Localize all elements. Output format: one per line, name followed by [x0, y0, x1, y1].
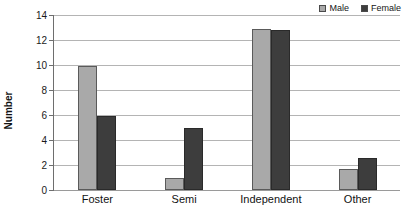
- bar-group: [252, 15, 290, 190]
- y-axis-tick-label: 0: [41, 185, 47, 196]
- chart-legend: Male Female: [319, 4, 401, 13]
- y-axis-tick-label: 8: [41, 85, 47, 96]
- bar-female-foster: [97, 116, 116, 190]
- bar-chart: Male Female Number 14121086420 FosterSem…: [0, 0, 407, 218]
- bar-group: [339, 15, 377, 190]
- bar-female-independent: [271, 30, 290, 190]
- y-axis-tick-label: 14: [36, 10, 47, 21]
- x-axis-label-foster: Foster: [82, 193, 113, 205]
- y-axis-tick-label: 2: [41, 160, 47, 171]
- y-axis-tick-label: 10: [36, 60, 47, 71]
- y-axis-tick-mark: [49, 190, 54, 191]
- x-axis-label-independent: Independent: [240, 193, 301, 205]
- x-axis-category-labels: FosterSemiIndependentOther: [54, 193, 401, 215]
- legend-swatch-female-icon: [361, 5, 368, 12]
- bar-female-semi: [184, 128, 203, 191]
- y-axis-title: Number: [2, 50, 16, 170]
- y-axis-tick-label: 12: [36, 35, 47, 46]
- bar-group: [165, 15, 203, 190]
- legend-label-female: Female: [371, 4, 401, 13]
- legend-item-male: Male: [319, 4, 349, 13]
- bar-series-container: [54, 15, 400, 190]
- x-axis-label-other: Other: [344, 193, 372, 205]
- legend-swatch-male-icon: [319, 5, 326, 12]
- x-axis-label-semi: Semi: [172, 193, 197, 205]
- y-axis-tick-label: 6: [41, 110, 47, 121]
- y-axis-tick-label: 4: [41, 135, 47, 146]
- plot-area: 14121086420: [53, 15, 400, 190]
- gridline: [53, 190, 400, 191]
- bar-female-other: [358, 158, 377, 191]
- bar-male-foster: [78, 66, 97, 190]
- bar-male-semi: [165, 178, 184, 191]
- bar-male-independent: [252, 29, 271, 190]
- legend-label-male: Male: [329, 4, 349, 13]
- legend-item-female: Female: [361, 4, 401, 13]
- y-axis-title-text: Number: [4, 91, 15, 129]
- bar-group: [78, 15, 116, 190]
- bar-male-other: [339, 169, 358, 190]
